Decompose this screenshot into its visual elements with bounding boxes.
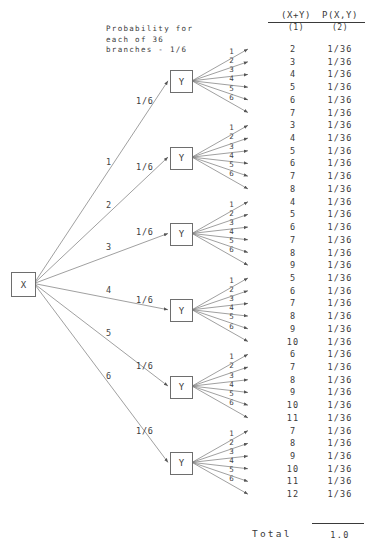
sub-branch-label-3-3: 3 — [229, 218, 234, 227]
prob-cell-5-2: 1/36 — [312, 362, 365, 372]
sub-branch-label-2-2: 2 — [229, 132, 234, 141]
root-branch-prob-label-5: 1/6 — [136, 361, 154, 371]
sum-cell-4-4: 8 — [273, 311, 313, 321]
sub-branch-label-1-1: 1 — [229, 47, 234, 56]
sub-branch-label-1-3: 3 — [229, 65, 234, 74]
root-node-label: X — [21, 280, 26, 290]
sub-branch-label-4-1: 1 — [229, 276, 234, 285]
sub-branch-label-2-5: 5 — [229, 160, 234, 169]
sub-branch-label-4-3: 3 — [229, 294, 234, 303]
sub-branch-label-2-6: 6 — [229, 169, 234, 178]
sub-branch-label-3-2: 2 — [229, 209, 234, 218]
sum-cell-6-1: 7 — [273, 426, 313, 436]
sum-cell-3-2: 5 — [273, 209, 313, 219]
sub-branch-label-6-6: 6 — [229, 474, 234, 483]
sum-cell-5-4: 9 — [273, 387, 313, 397]
second-node-y-5[interactable]: Y — [170, 376, 193, 399]
sum-cell-1-1: 2 — [273, 44, 313, 54]
prob-cell-4-3: 1/36 — [312, 298, 365, 308]
total-value: 1.0 — [312, 530, 365, 540]
sum-cell-3-4: 7 — [273, 235, 313, 245]
root-branch-prob-label-6: 1/6 — [136, 426, 154, 436]
second-node-y-6[interactable]: Y — [170, 452, 193, 475]
prob-cell-5-3: 1/36 — [312, 375, 365, 385]
sum-cell-3-3: 6 — [273, 222, 313, 232]
second-node-y-label: Y — [179, 458, 184, 468]
root-branch-prob-label-4: 1/6 — [136, 295, 154, 305]
prob-cell-3-2: 1/36 — [312, 209, 365, 219]
root-branch-label-5: 5 — [106, 328, 112, 338]
prob-cell-2-5: 1/36 — [312, 171, 365, 181]
sub-branch-label-1-4: 4 — [229, 74, 234, 83]
second-node-y-4[interactable]: Y — [170, 299, 193, 322]
prob-cell-6-5: 1/36 — [312, 476, 365, 486]
root-branch-label-2: 2 — [106, 200, 112, 210]
second-node-y-1[interactable]: Y — [170, 70, 193, 93]
sum-cell-5-1: 6 — [273, 349, 313, 359]
prob-cell-2-6: 1/36 — [312, 184, 365, 194]
prob-cell-4-1: 1/36 — [312, 273, 365, 283]
second-node-y-label: Y — [179, 229, 184, 239]
sum-cell-5-2: 7 — [273, 362, 313, 372]
sub-branch-label-5-3: 3 — [229, 371, 234, 380]
sub-branch-label-3-4: 4 — [229, 227, 234, 236]
prob-cell-1-5: 1/36 — [312, 95, 365, 105]
prob-cell-4-6: 1/36 — [312, 337, 365, 347]
prob-cell-3-1: 1/36 — [312, 197, 365, 207]
probability-tree-diagram: Probability for each of 36 branches - 1/… — [0, 0, 365, 552]
root-branch-label-1: 1 — [106, 157, 112, 167]
sum-cell-4-1: 5 — [273, 273, 313, 283]
sub-branch-label-4-6: 6 — [229, 322, 234, 331]
sum-cell-1-5: 6 — [273, 95, 313, 105]
root-branch-label-3: 3 — [106, 242, 112, 252]
sub-branch-label-2-1: 1 — [229, 123, 234, 132]
sub-branch-label-5-4: 4 — [229, 380, 234, 389]
second-node-y-label: Y — [179, 77, 184, 87]
sum-cell-6-4: 10 — [273, 464, 313, 474]
sum-cell-2-5: 7 — [273, 171, 313, 181]
second-node-y-label: Y — [179, 306, 184, 316]
sub-branch-label-3-5: 5 — [229, 236, 234, 245]
sub-branch-label-6-5: 5 — [229, 465, 234, 474]
sum-cell-2-3: 5 — [273, 146, 313, 156]
prob-cell-6-4: 1/36 — [312, 464, 365, 474]
sum-cell-5-5: 10 — [273, 400, 313, 410]
sum-cell-1-2: 3 — [273, 57, 313, 67]
sum-cell-6-6: 12 — [273, 489, 313, 499]
second-node-y-3[interactable]: Y — [170, 223, 193, 246]
prob-cell-1-3: 1/36 — [312, 69, 365, 79]
sub-branch-label-5-1: 1 — [229, 352, 234, 361]
sum-cell-3-5: 8 — [273, 248, 313, 258]
sub-branch-label-3-6: 6 — [229, 245, 234, 254]
root-branch-prob-label-1: 1/6 — [136, 96, 154, 106]
root-branch-prob-label-2: 1/6 — [136, 162, 154, 172]
sub-branch-label-1-6: 6 — [229, 93, 234, 102]
sub-branch-label-6-2: 2 — [229, 438, 234, 447]
prob-cell-4-2: 1/36 — [312, 286, 365, 296]
sub-branch-label-5-6: 6 — [229, 398, 234, 407]
sub-branch-label-6-3: 3 — [229, 447, 234, 456]
prob-cell-3-4: 1/36 — [312, 235, 365, 245]
prob-cell-1-6: 1/36 — [312, 108, 365, 118]
sub-branch-label-1-2: 2 — [229, 56, 234, 65]
sum-cell-4-6: 10 — [273, 337, 313, 347]
second-node-y-2[interactable]: Y — [170, 147, 193, 170]
prob-cell-6-1: 1/36 — [312, 426, 365, 436]
sub-branch-label-4-5: 5 — [229, 312, 234, 321]
sum-cell-3-1: 4 — [273, 197, 313, 207]
prob-cell-1-4: 1/36 — [312, 82, 365, 92]
prob-cell-1-2: 1/36 — [312, 57, 365, 67]
prob-cell-5-5: 1/36 — [312, 400, 365, 410]
prob-cell-2-4: 1/36 — [312, 158, 365, 168]
prob-cell-4-5: 1/36 — [312, 324, 365, 334]
root-node-x[interactable]: X — [11, 272, 36, 297]
root-branch-label-4: 4 — [106, 285, 112, 295]
second-node-y-label: Y — [179, 153, 184, 163]
sum-cell-3-6: 9 — [273, 260, 313, 270]
prob-cell-2-3: 1/36 — [312, 146, 365, 156]
sub-branch-label-4-2: 2 — [229, 285, 234, 294]
prob-cell-6-6: 1/36 — [312, 489, 365, 499]
sum-cell-4-3: 7 — [273, 298, 313, 308]
sum-cell-6-2: 8 — [273, 438, 313, 448]
sub-branch-label-6-1: 1 — [229, 429, 234, 438]
